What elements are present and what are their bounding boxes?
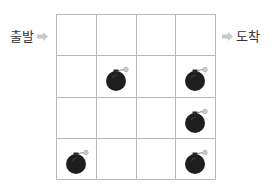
- grid-cell-r0-c3: [176, 15, 216, 56]
- bomb-icon: [184, 108, 210, 134]
- grid-cell-r3-c2: [137, 139, 177, 180]
- grid-cell-r2-c2: [137, 98, 177, 139]
- grid-cell-r3-c3: [176, 139, 216, 180]
- arrow-right-icon: [222, 32, 233, 41]
- grid-cell-r1-c0: [57, 56, 97, 97]
- grid-cell-r1-c3: [176, 56, 216, 97]
- bomb-icon: [65, 149, 91, 175]
- minefield-grid: [56, 14, 216, 180]
- grid-cell-r2-c0: [57, 98, 97, 139]
- bomb-icon: [105, 66, 131, 92]
- end-label: 도착: [236, 30, 260, 43]
- bomb-icon: [184, 66, 210, 92]
- grid-cell-r2-c3: [176, 98, 216, 139]
- grid-cell-r0-c1: [97, 15, 137, 56]
- grid-cell-r3-c1: [97, 139, 137, 180]
- arrow-right-icon: [37, 32, 48, 41]
- start-label: 출발: [10, 30, 34, 43]
- grid-cell-r1-c2: [137, 56, 177, 97]
- start-label-group: 출발: [10, 30, 48, 43]
- grid-cell-r2-c1: [97, 98, 137, 139]
- end-label-group: 도착: [222, 30, 260, 43]
- bomb-icon: [184, 149, 210, 175]
- grid-cell-r0-c0: [57, 15, 97, 56]
- grid-cell-r0-c2: [137, 15, 177, 56]
- grid-cell-r3-c0: [57, 139, 97, 180]
- grid-cell-r1-c1: [97, 56, 137, 97]
